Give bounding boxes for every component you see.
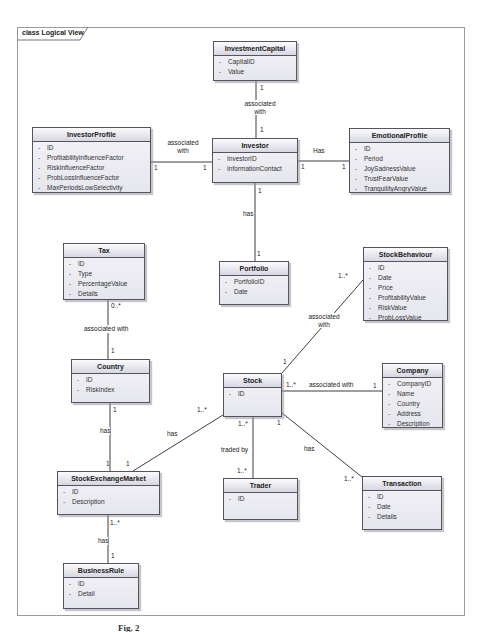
visibility-marker: - bbox=[219, 57, 224, 67]
diagram-canvas: class Logical View InvestmentCapital -Ca… bbox=[0, 0, 478, 632]
visibility-marker: - bbox=[69, 269, 74, 279]
attribute-row: -Details bbox=[363, 512, 441, 522]
attribute-row: -ID bbox=[72, 375, 149, 385]
attribute-name: Details bbox=[377, 512, 397, 522]
class-box-emotionalprofile: EmotionalProfile -ID -Period -JoySadness… bbox=[349, 128, 450, 193]
attribute-row: -ID bbox=[224, 389, 281, 399]
association-label: associated with bbox=[309, 381, 353, 389]
class-box-businessrule: BusinessRule -ID -Detail bbox=[63, 563, 139, 609]
multiplicity: 1 bbox=[277, 419, 281, 426]
association-label: associated with bbox=[241, 100, 279, 115]
attribute-name: ProbLossValue bbox=[378, 313, 422, 321]
class-name: Investor bbox=[213, 139, 297, 153]
attribute-row: -TranquilityAngryValue bbox=[350, 184, 449, 193]
attributes-list: -ID -Detail bbox=[64, 578, 138, 599]
attribute-row: -ProbLossValue bbox=[364, 313, 447, 321]
attribute-row: -Price bbox=[364, 283, 447, 293]
attribute-name: CapitalID bbox=[228, 57, 255, 67]
association-label: traded by bbox=[221, 446, 248, 454]
association-label: has bbox=[243, 210, 253, 218]
attributes-list: -ID bbox=[224, 388, 281, 399]
attribute-name: Date bbox=[377, 502, 391, 512]
visibility-marker: - bbox=[368, 492, 373, 502]
association-label: associated with bbox=[305, 313, 343, 328]
class-name: InvestmentCapital bbox=[214, 42, 296, 56]
visibility-marker: - bbox=[388, 419, 393, 428]
attribute-row: -CapitalID bbox=[214, 57, 296, 67]
attributes-list: -ID bbox=[224, 493, 297, 504]
multiplicity: 1 bbox=[373, 382, 377, 389]
attribute-row: -PortfolioID bbox=[220, 277, 288, 287]
multiplicity: 1 bbox=[111, 552, 115, 559]
attribute-name: MaxPeriodsLowSelectivity bbox=[47, 183, 123, 193]
attribute-name: ID bbox=[238, 389, 245, 399]
visibility-marker: - bbox=[369, 303, 374, 313]
multiplicity: 1..* bbox=[197, 406, 207, 413]
class-name: BusinessRule bbox=[64, 564, 138, 578]
attribute-name: PortfolioID bbox=[234, 277, 264, 287]
visibility-marker: - bbox=[388, 399, 393, 409]
attribute-row: -JoySadnessValue bbox=[350, 164, 449, 174]
attribute-row: -ID bbox=[363, 492, 441, 502]
class-box-trader: Trader -ID bbox=[223, 478, 298, 520]
attributes-list: -CapitalID -Value bbox=[214, 56, 296, 77]
multiplicity: 1 bbox=[113, 406, 117, 413]
attributes-list: -InvestorID -InformationContact bbox=[213, 153, 297, 174]
attribute-row: -InformationContact bbox=[213, 164, 297, 174]
attribute-row: -Details bbox=[64, 289, 144, 299]
attribute-name: ID bbox=[78, 579, 85, 589]
attribute-row: -MaxPeriodsLowSelectivity bbox=[33, 183, 150, 193]
attribute-name: ProbLossInfluenceFactor bbox=[47, 173, 119, 183]
attribute-row: -ProfitabilityValue bbox=[364, 293, 447, 303]
visibility-marker: - bbox=[229, 389, 234, 399]
attribute-name: ID bbox=[78, 259, 85, 269]
class-name: EmotionalProfile bbox=[350, 129, 449, 143]
multiplicity: 1..* bbox=[238, 420, 248, 427]
attribute-name: RiskInfluenceFactor bbox=[47, 163, 104, 173]
attribute-row: -Date bbox=[220, 287, 288, 297]
multiplicity: 1 bbox=[258, 187, 262, 194]
attribute-name: Description bbox=[72, 497, 105, 507]
visibility-marker: - bbox=[355, 154, 360, 164]
visibility-marker: - bbox=[38, 163, 43, 173]
attribute-name: ID bbox=[378, 263, 385, 273]
multiplicity: 1..* bbox=[110, 519, 120, 526]
attributes-list: -ID -Type -PercentageValue -Details bbox=[64, 258, 144, 299]
attribute-name: Detail bbox=[78, 589, 95, 599]
visibility-marker: - bbox=[69, 589, 74, 599]
attributes-list: -PortfolioID -Date bbox=[220, 276, 288, 297]
multiplicity: 1 bbox=[301, 163, 305, 170]
attribute-row: -Date bbox=[363, 502, 441, 512]
attribute-name: Description bbox=[397, 419, 430, 428]
visibility-marker: - bbox=[388, 379, 393, 389]
visibility-marker: - bbox=[388, 389, 393, 399]
connector-stock-stockexchangemarket bbox=[133, 415, 223, 471]
visibility-marker: - bbox=[355, 174, 360, 184]
attribute-name: Address bbox=[397, 409, 421, 419]
class-name: Transaction bbox=[363, 477, 441, 491]
visibility-marker: - bbox=[388, 409, 393, 419]
multiplicity: 1 bbox=[203, 164, 207, 171]
class-box-tax: Tax -ID -Type -PercentageValue -Details bbox=[63, 243, 145, 300]
association-label: associated with bbox=[84, 325, 128, 333]
attribute-name: ID bbox=[86, 375, 93, 385]
attribute-row: -CompanyID bbox=[383, 379, 442, 389]
class-box-stock: Stock -ID bbox=[223, 373, 282, 417]
attribute-name: Name bbox=[397, 389, 414, 399]
attribute-row: -ID bbox=[33, 143, 150, 153]
association-label: has bbox=[167, 430, 177, 438]
attribute-row: -Date bbox=[364, 273, 447, 283]
visibility-marker: - bbox=[77, 385, 82, 395]
visibility-marker: - bbox=[355, 164, 360, 174]
class-name: InvestorProfile bbox=[33, 128, 150, 142]
visibility-marker: - bbox=[368, 512, 373, 522]
attribute-name: Date bbox=[378, 273, 392, 283]
attribute-name: ProfitabilityInfluenceFactor bbox=[47, 153, 124, 163]
attribute-name: RiskValue bbox=[378, 303, 407, 313]
attribute-row: -RiskIndex bbox=[72, 385, 149, 395]
visibility-marker: - bbox=[369, 283, 374, 293]
attribute-name: TranquilityAngryValue bbox=[364, 184, 427, 193]
multiplicity: 1 bbox=[126, 460, 130, 467]
attribute-row: -ID bbox=[350, 144, 449, 154]
attribute-name: InformationContact bbox=[227, 164, 282, 174]
